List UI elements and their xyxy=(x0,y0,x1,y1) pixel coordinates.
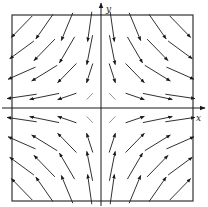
vector-arrow xyxy=(11,16,32,38)
vector-arrow xyxy=(88,175,92,205)
vector-arrow xyxy=(36,14,53,39)
vector-arrow xyxy=(126,133,145,152)
vector-arrow xyxy=(87,64,93,83)
vector-arrow xyxy=(34,155,55,177)
vector-arrow xyxy=(129,13,141,41)
vector-arrow xyxy=(58,133,77,152)
vector-arrow xyxy=(61,176,73,204)
vector-arrow xyxy=(145,65,171,81)
vector-arrow xyxy=(127,153,142,179)
vector-arrow xyxy=(32,65,58,81)
vector-arrow xyxy=(88,12,92,42)
vector-arrow xyxy=(145,135,171,151)
vector-arrow xyxy=(165,117,195,121)
vector-arrow xyxy=(11,179,32,201)
vector-arrow xyxy=(32,135,58,151)
vector-arrow xyxy=(109,64,115,83)
vector-arrow xyxy=(126,93,145,99)
vector-field-diagram: y x xyxy=(0,0,208,207)
vector-arrow xyxy=(109,93,115,99)
vector-arrow xyxy=(167,67,194,79)
vector-arrow xyxy=(126,64,145,83)
vector-arrow xyxy=(110,12,114,42)
vector-arrow xyxy=(61,13,73,41)
vector-arrow xyxy=(127,37,142,63)
vector-arrow xyxy=(10,157,34,175)
vector-arrow xyxy=(149,177,166,202)
vector-arrow xyxy=(165,94,195,98)
y-axis-label: y xyxy=(105,4,112,14)
vector-arrow xyxy=(60,153,75,179)
vector-arrow xyxy=(170,179,191,201)
vector-arrow xyxy=(58,93,77,99)
vector-arrow xyxy=(129,176,141,204)
vector-arrow xyxy=(168,41,192,59)
vector-arrow xyxy=(147,39,168,61)
vector-arrow xyxy=(109,133,115,152)
vector-arrow xyxy=(36,177,53,202)
vector-arrow xyxy=(58,116,77,122)
vector-arrow xyxy=(10,41,34,59)
vector-arrow xyxy=(168,157,192,175)
vector-arrow xyxy=(126,116,145,122)
vector-arrow xyxy=(60,37,75,63)
vector-arrow xyxy=(87,133,93,152)
vector-arrow xyxy=(167,137,194,149)
vector-arrow xyxy=(87,116,93,122)
vector-arrow xyxy=(58,64,77,83)
vector-arrow xyxy=(87,93,93,99)
vector-arrow xyxy=(149,14,166,39)
vector-arrow xyxy=(110,175,114,205)
vector-arrow xyxy=(147,155,168,177)
vector-arrow xyxy=(109,116,115,122)
vector-arrow xyxy=(170,16,191,38)
x-axis-label: x xyxy=(196,113,201,123)
vector-arrow xyxy=(34,39,55,61)
